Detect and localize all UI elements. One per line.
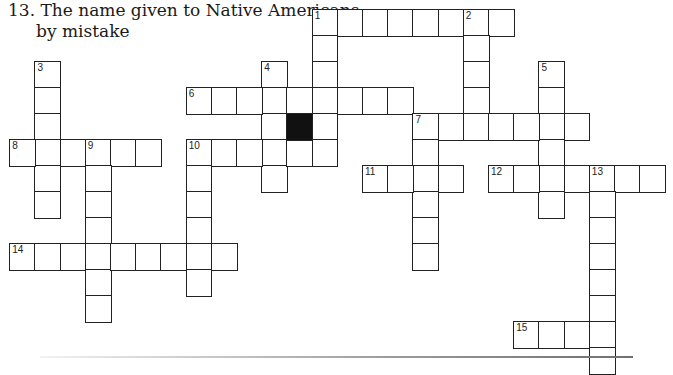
grid-cell[interactable] bbox=[211, 139, 238, 167]
grid-cell[interactable] bbox=[362, 9, 389, 37]
grid-cell[interactable] bbox=[412, 139, 439, 167]
grid-cell[interactable] bbox=[135, 139, 162, 167]
grid-cell[interactable] bbox=[211, 87, 238, 115]
grid-cell[interactable] bbox=[538, 191, 565, 219]
grid-cell[interactable] bbox=[34, 191, 61, 219]
grid-cell[interactable] bbox=[387, 9, 414, 37]
grid-cell[interactable] bbox=[186, 165, 213, 193]
grid-cell[interactable] bbox=[34, 243, 61, 271]
clue-number: 2 bbox=[466, 10, 472, 22]
grid-cell[interactable] bbox=[85, 243, 112, 271]
grid-cell[interactable] bbox=[513, 165, 540, 193]
grid-cell[interactable] bbox=[286, 87, 313, 115]
grid-cell[interactable] bbox=[261, 165, 288, 193]
grid-cell[interactable] bbox=[211, 243, 238, 271]
grid-cell[interactable] bbox=[110, 243, 137, 271]
grid-cell[interactable] bbox=[564, 165, 591, 193]
grid-cell[interactable] bbox=[564, 321, 591, 349]
grid-cell[interactable] bbox=[589, 243, 616, 271]
grid-cell[interactable] bbox=[337, 9, 364, 37]
grid-cell[interactable] bbox=[312, 113, 339, 141]
grid-cell[interactable] bbox=[135, 243, 162, 271]
grid-cell[interactable] bbox=[463, 35, 490, 63]
grid-cell[interactable] bbox=[463, 61, 490, 89]
grid-cell[interactable]: 4 bbox=[261, 61, 288, 89]
grid-cell[interactable] bbox=[589, 191, 616, 219]
grid-cell[interactable] bbox=[538, 321, 565, 349]
grid-cell[interactable] bbox=[564, 113, 591, 141]
grid-cell[interactable] bbox=[236, 139, 263, 167]
grid-cell[interactable]: 12 bbox=[488, 165, 515, 193]
grid-cell[interactable] bbox=[412, 165, 439, 193]
grid-cell[interactable] bbox=[34, 165, 61, 193]
grid-cell[interactable]: 3 bbox=[34, 61, 61, 89]
grid-cell[interactable] bbox=[261, 87, 288, 115]
grid-cell[interactable] bbox=[463, 113, 490, 141]
grid-cell[interactable] bbox=[589, 217, 616, 245]
grid-cell[interactable] bbox=[312, 61, 339, 89]
grid-cell[interactable] bbox=[412, 9, 439, 37]
grid-cell[interactable] bbox=[589, 269, 616, 297]
grid-cell[interactable]: 7 bbox=[412, 113, 439, 141]
grid-cell[interactable] bbox=[236, 87, 263, 115]
grid-cell[interactable] bbox=[34, 87, 61, 115]
grid-cell[interactable] bbox=[186, 269, 213, 297]
grid-cell[interactable]: 14 bbox=[9, 243, 36, 271]
grid-cell[interactable]: 1 bbox=[312, 9, 339, 37]
grid-cell[interactable] bbox=[387, 87, 414, 115]
clue-number: 6 bbox=[189, 88, 195, 100]
grid-cell[interactable] bbox=[261, 113, 288, 141]
grid-cell[interactable]: 6 bbox=[186, 87, 213, 115]
grid-cell[interactable] bbox=[186, 191, 213, 219]
grid-cell[interactable] bbox=[412, 191, 439, 219]
grid-cell[interactable] bbox=[412, 217, 439, 245]
grid-cell[interactable] bbox=[312, 87, 339, 115]
grid-cell[interactable] bbox=[639, 165, 666, 193]
grid-cell[interactable] bbox=[538, 165, 565, 193]
grid-cell[interactable]: 2 bbox=[463, 9, 490, 37]
grid-cell[interactable] bbox=[85, 165, 112, 193]
grid-cell[interactable] bbox=[513, 113, 540, 141]
grid-cell[interactable]: 8 bbox=[9, 139, 36, 167]
grid-cell[interactable] bbox=[60, 243, 87, 271]
grid-cell[interactable] bbox=[589, 347, 616, 375]
grid-cell[interactable] bbox=[60, 139, 87, 167]
grid-cell[interactable] bbox=[186, 217, 213, 245]
grid-cell[interactable] bbox=[412, 243, 439, 271]
grid-cell[interactable] bbox=[261, 139, 288, 167]
grid-cell[interactable]: 13 bbox=[589, 165, 616, 193]
grid-cell[interactable] bbox=[589, 295, 616, 323]
grid-cell[interactable] bbox=[85, 295, 112, 323]
grid-cell[interactable] bbox=[438, 165, 465, 193]
grid-cell[interactable] bbox=[286, 139, 313, 167]
grid-cell[interactable] bbox=[438, 9, 465, 37]
grid-cell[interactable] bbox=[85, 191, 112, 219]
grid-cell[interactable] bbox=[110, 139, 137, 167]
grid-cell[interactable] bbox=[85, 269, 112, 297]
grid-cell[interactable] bbox=[538, 87, 565, 115]
grid-cell[interactable] bbox=[614, 165, 641, 193]
grid-cell[interactable] bbox=[337, 87, 364, 115]
grid-cell[interactable] bbox=[186, 243, 213, 271]
grid-cell[interactable] bbox=[488, 113, 515, 141]
grid-cell[interactable] bbox=[312, 139, 339, 167]
grid-cell[interactable] bbox=[387, 165, 414, 193]
grid-cell[interactable] bbox=[362, 87, 389, 115]
grid-cell[interactable] bbox=[160, 243, 187, 271]
grid-cell[interactable]: 10 bbox=[186, 139, 213, 167]
grid-cell[interactable] bbox=[488, 9, 515, 37]
grid-cell[interactable] bbox=[538, 139, 565, 167]
grid-cell[interactable] bbox=[85, 217, 112, 245]
grid-cell[interactable] bbox=[463, 87, 490, 115]
grid-cell[interactable]: 11 bbox=[362, 165, 389, 193]
grid-cell[interactable] bbox=[438, 113, 465, 141]
grid-cell[interactable] bbox=[34, 113, 61, 141]
grid-cell[interactable] bbox=[538, 113, 565, 141]
grid-cell[interactable] bbox=[589, 321, 616, 349]
grid-cell[interactable]: 15 bbox=[513, 321, 540, 349]
grid-cell[interactable]: 9 bbox=[85, 139, 112, 167]
grid-cell[interactable] bbox=[312, 35, 339, 63]
grid-cell[interactable]: 5 bbox=[538, 61, 565, 89]
grid-cell[interactable] bbox=[34, 139, 61, 167]
